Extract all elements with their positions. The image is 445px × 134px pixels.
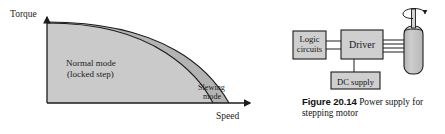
block-logic-circuits-label-line-2: circuits: [297, 44, 323, 54]
block-dc-supply-label: DC supply: [337, 77, 375, 87]
x-axis-label: Speed: [216, 111, 239, 121]
stepping-motor-body: [404, 26, 423, 74]
normal-mode-label-line-1: Normal mode: [66, 58, 116, 68]
figure-caption: Figure 20.14 Power supply for stepping m…: [302, 96, 442, 120]
slewing-mode-label-line-2: mode: [203, 92, 222, 101]
torque-speed-chart-panel: Torque Speed Normal mode (locked step) S…: [0, 0, 278, 134]
figure-number: Figure 20.14: [302, 96, 357, 107]
slewing-mode-label-line-1: Slewing: [198, 83, 225, 92]
y-axis-label: Torque: [10, 9, 37, 19]
normal-mode-label-line-2: (locked step): [67, 69, 114, 79]
torque-speed-chart: Torque Speed Normal mode (locked step) S…: [0, 0, 278, 134]
block-driver-label: Driver: [349, 39, 376, 50]
block-logic-circuits-label-line-1: Logic: [299, 34, 319, 44]
